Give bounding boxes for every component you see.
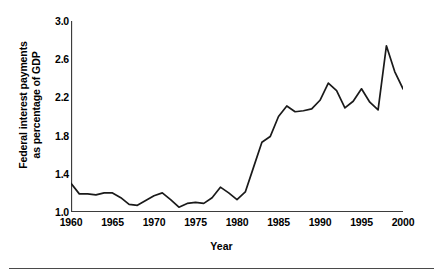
y-axis-tick-labels: 1.01.41.82.22.63.0 xyxy=(40,0,69,280)
x-tick-label: 1965 xyxy=(101,216,124,228)
data-series-line xyxy=(71,46,403,207)
footer-divider xyxy=(9,268,434,269)
x-tick-label: 1960 xyxy=(60,216,83,228)
x-tick-label: 1995 xyxy=(350,216,373,228)
y-tick-label: 2.2 xyxy=(40,91,69,103)
x-tick-label: 1970 xyxy=(143,216,166,228)
plot-area xyxy=(71,21,403,212)
x-tick-label: 1975 xyxy=(184,216,207,228)
x-tick-label: 1990 xyxy=(309,216,332,228)
chart-figure: Federal interest payments as percentage … xyxy=(0,0,443,280)
x-axis-tick-labels: 196019651970197519801985199019952000 xyxy=(0,216,443,232)
x-axis-title: Year xyxy=(0,240,443,252)
x-tick-label: 1980 xyxy=(226,216,249,228)
y-tick-label: 1.8 xyxy=(40,130,69,142)
x-tick-label: 1985 xyxy=(267,216,290,228)
y-tick-label: 3.0 xyxy=(40,15,69,27)
line-chart-svg xyxy=(71,21,403,212)
y-tick-label: 2.6 xyxy=(40,53,69,65)
x-tick-label: 2000 xyxy=(392,216,415,228)
y-tick-label: 1.4 xyxy=(40,168,69,180)
